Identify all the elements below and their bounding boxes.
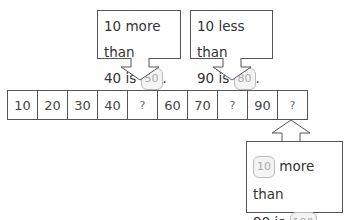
arrow-down-icon [120, 58, 160, 82]
answer-box[interactable]: 100 [290, 212, 317, 220]
period: . [163, 70, 167, 86]
callout-line-1: 10 more than [253, 152, 342, 208]
callout-10-more-than-90: 10 more than 90 is 100. [246, 141, 343, 213]
period: . [317, 214, 321, 220]
callout-text: 10 less than [197, 18, 245, 60]
strip-cell: 60 [158, 91, 188, 119]
strip-cell: 20 [38, 91, 68, 119]
strip-cell: 30 [68, 91, 98, 119]
answer-box[interactable]: 10 [253, 156, 275, 178]
strip-cell-unknown: ? [218, 91, 248, 119]
arrow-up-icon [271, 120, 311, 142]
callout-10-more-than-40: 10 more than 40 is 50. [97, 10, 181, 59]
callout-text: 10 more than [104, 18, 160, 60]
callout-line-2: 90 is 100. [253, 208, 342, 220]
strip-cell: 40 [98, 91, 128, 119]
strip-cell: 90 [248, 91, 278, 119]
number-strip: 10 20 30 40 ? 60 70 ? 90 ? [7, 90, 308, 120]
period: . [256, 70, 260, 86]
strip-cell-unknown: ? [278, 91, 308, 119]
callout-text: 90 is [253, 214, 285, 220]
strip-cell: 10 [8, 91, 38, 119]
strip-cell: 70 [188, 91, 218, 119]
callout-10-less-than-90: 10 less than 90 is 80. [190, 10, 273, 59]
strip-cell-unknown: ? [128, 91, 158, 119]
arrow-down-icon [212, 58, 252, 82]
